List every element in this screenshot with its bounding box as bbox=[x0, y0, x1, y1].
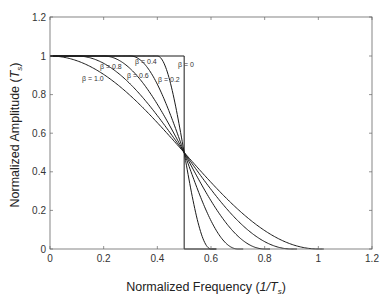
beta-label: β = 0.8 bbox=[100, 63, 122, 71]
x-axis-label: Normalized Frequency (1/Ts) bbox=[126, 280, 286, 296]
y-tick-label: 1.2 bbox=[32, 12, 46, 23]
y-tick-label: 0.4 bbox=[32, 166, 46, 177]
curve--0-4 bbox=[50, 56, 243, 249]
beta-label: β = 0 bbox=[178, 61, 194, 69]
curve--0-2 bbox=[50, 56, 216, 249]
x-tick-label: 1.2 bbox=[365, 253, 379, 264]
y-tick-label: 0.8 bbox=[32, 89, 46, 100]
y-axis-ticks: 00.20.40.60.811.2 bbox=[32, 12, 372, 255]
curve--0-8 bbox=[50, 56, 297, 249]
curve--0 bbox=[50, 56, 216, 249]
x-tick-label: 0.2 bbox=[97, 253, 111, 264]
x-tick-label: 0.4 bbox=[150, 253, 164, 264]
beta-label: β = 0.4 bbox=[135, 58, 157, 66]
x-tick-label: 0 bbox=[47, 253, 53, 264]
plot-frame bbox=[50, 17, 372, 249]
x-tick-label: 0.8 bbox=[258, 253, 272, 264]
y-tick-label: 1 bbox=[40, 51, 46, 62]
beta-label: β = 1.0 bbox=[82, 75, 104, 83]
beta-label: β = 0.6 bbox=[127, 72, 149, 80]
y-tick-label: 0 bbox=[40, 244, 46, 255]
x-tick-label: 0.6 bbox=[204, 253, 218, 264]
y-tick-label: 0.6 bbox=[32, 128, 46, 139]
y-axis-label: Normalized Amplitude (Ts) bbox=[8, 62, 24, 207]
raised-cosine-chart: 00.20.40.60.811.2 00.20.40.60.811.2 β = … bbox=[0, 0, 387, 306]
x-axis-ticks: 00.20.40.60.811.2 bbox=[47, 17, 379, 264]
y-tick-label: 0.2 bbox=[32, 205, 46, 216]
beta-label: β = 0.2 bbox=[158, 76, 180, 84]
curves bbox=[50, 56, 324, 249]
x-tick-label: 1 bbox=[316, 253, 322, 264]
curve--1-0 bbox=[50, 56, 324, 249]
